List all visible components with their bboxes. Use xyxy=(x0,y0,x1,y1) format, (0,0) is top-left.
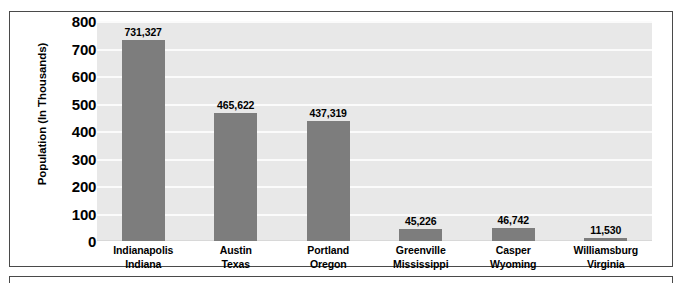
y-tick-label: 400 xyxy=(48,123,96,140)
bar-value-label: 46,742 xyxy=(468,214,558,226)
gridline xyxy=(97,186,652,188)
bar xyxy=(584,238,627,241)
gridline xyxy=(97,214,652,216)
x-axis-category-labels: IndianapolisIndianaAustinTexasPortlandOr… xyxy=(97,244,652,276)
bar-value-label: 465,622 xyxy=(191,99,281,111)
axis-baseline xyxy=(97,240,652,241)
category-state: Virginia xyxy=(551,258,661,272)
secondary-frame xyxy=(9,276,673,283)
gridline xyxy=(97,21,652,23)
y-tick-label: 300 xyxy=(48,150,96,167)
chart-figure: Population (In Thousands) 80070060050040… xyxy=(0,0,682,283)
y-tick-label: 200 xyxy=(48,178,96,195)
gridline xyxy=(97,159,652,161)
bar xyxy=(492,228,535,241)
y-tick-label: 600 xyxy=(48,68,96,85)
plot-area: 731,327465,622437,31945,22646,74211,530 xyxy=(97,21,652,241)
gridline xyxy=(97,49,652,51)
bar xyxy=(122,40,165,241)
y-tick-label: 100 xyxy=(48,205,96,222)
category-label: WilliamsburgVirginia xyxy=(551,244,661,271)
y-tick-label: 700 xyxy=(48,40,96,57)
gridline xyxy=(97,131,652,133)
bar-value-label: 437,319 xyxy=(283,107,373,119)
bar-value-label: 11,530 xyxy=(561,224,651,236)
bar-value-label: 45,226 xyxy=(376,215,466,227)
y-axis-title: Population (In Thousands) xyxy=(36,14,48,214)
chart-frame: Population (In Thousands) 80070060050040… xyxy=(9,11,673,267)
gridline xyxy=(97,76,652,78)
bar-value-label: 731,327 xyxy=(98,26,188,38)
y-tick-label: 800 xyxy=(48,13,96,30)
y-axis-tick-labels: 8007006005004003002001000 xyxy=(48,21,96,241)
bar xyxy=(399,229,442,241)
bar xyxy=(214,113,257,241)
bar xyxy=(307,121,350,241)
category-city: Williamsburg xyxy=(551,244,661,258)
gridline xyxy=(97,104,652,106)
y-tick-label: 500 xyxy=(48,95,96,112)
